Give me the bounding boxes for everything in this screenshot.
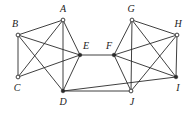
node-f: [112, 53, 116, 57]
node-i: [174, 75, 178, 79]
nodes-layer: [16, 18, 179, 93]
node-label-h: H: [173, 18, 182, 29]
node-b: [16, 33, 20, 37]
graph-diagram: ABCDEFGHIJ: [0, 0, 194, 113]
node-h: [175, 33, 179, 37]
node-d: [61, 89, 65, 93]
edge-h-i: [176, 35, 177, 77]
node-label-j: J: [130, 96, 135, 107]
node-g: [130, 18, 134, 22]
edge-a-e: [63, 20, 80, 55]
node-a: [61, 18, 65, 22]
edge-g-h: [132, 20, 177, 35]
node-e: [78, 53, 82, 57]
node-j: [129, 89, 133, 93]
edge-h-j: [131, 35, 177, 91]
node-label-e: E: [82, 40, 89, 51]
edges-layer: [18, 20, 177, 91]
node-label-c: C: [14, 82, 21, 93]
edge-g-i: [132, 20, 176, 77]
node-label-f: F: [105, 40, 113, 51]
node-label-i: I: [175, 82, 180, 93]
node-c: [16, 75, 20, 79]
node-label-g: G: [127, 3, 134, 14]
edge-d-i: [63, 77, 176, 91]
edge-a-c: [18, 20, 63, 77]
node-label-d: D: [58, 96, 67, 107]
edge-a-b: [18, 20, 63, 35]
edge-g-j: [131, 20, 132, 91]
node-label-b: B: [12, 18, 18, 29]
node-label-a: A: [59, 3, 67, 14]
